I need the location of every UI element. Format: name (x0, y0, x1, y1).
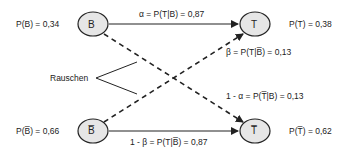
node-t-label: T (251, 19, 257, 30)
edge-alpha-label: α = P(T|B) = 0,87 (139, 9, 204, 19)
edge-one-minus-alpha-label: 1 - α = P(T̅|B) = 0,13 (226, 91, 304, 101)
prob-t-bar: P(T̅) = 0,62 (289, 126, 332, 136)
prob-b: P(B) = 0,34 (16, 19, 59, 29)
node-t-bar-label: T̅ (251, 125, 257, 136)
node-b-bar-label: B̅ (88, 125, 95, 136)
prob-t: P(T) = 0,38 (289, 19, 332, 29)
noise-label: Rauschen (50, 73, 88, 83)
node-b-label: B (88, 19, 95, 30)
edge-beta-label: β = P(T|B̅) = 0,13 (226, 47, 291, 57)
prob-b-bar: P(B̅) = 0,66 (16, 126, 59, 136)
edge-one-minus-beta-label: 1 - β = P(T|B̅) = 0,87 (130, 137, 208, 147)
